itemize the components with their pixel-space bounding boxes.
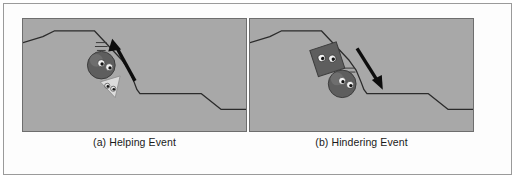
terrain-path (23, 31, 246, 110)
panel-helping-event: (a) Helping Event (22, 18, 247, 160)
hindering-event-scene (249, 18, 474, 132)
helping-event-scene (22, 18, 247, 132)
motion-lines (95, 43, 107, 51)
climber-circle (328, 70, 356, 98)
downward-motion-arrow (357, 48, 383, 89)
terrain-path (250, 31, 473, 110)
figure-frame: (a) Helping Event (3, 3, 512, 175)
panel-caption-b: (b) Hindering Event (249, 136, 474, 148)
hindering-event-illustration (250, 19, 473, 131)
helping-event-illustration (23, 19, 246, 131)
panel-hindering-event: (b) Hindering Event (249, 18, 474, 160)
climber-circle (87, 51, 115, 79)
panel-caption-a: (a) Helping Event (22, 136, 247, 148)
